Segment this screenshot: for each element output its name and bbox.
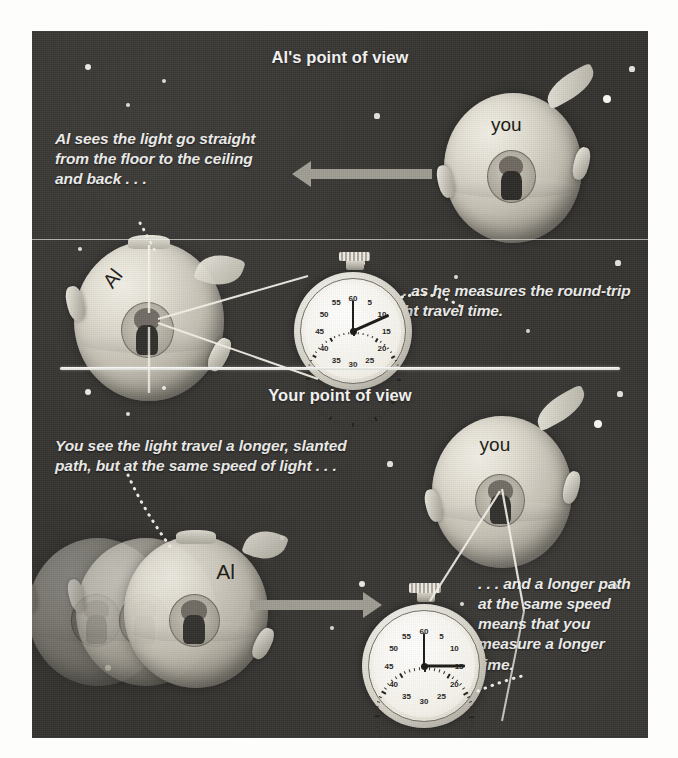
stopwatch-number: 40 (320, 343, 329, 352)
astronaut-body (183, 615, 205, 644)
star (615, 260, 620, 265)
stopwatch-number: 15 (382, 327, 391, 336)
top-panel-heading: Al's point of view (32, 48, 648, 67)
your-stopwatch: 60510152025303540455055 (362, 604, 486, 728)
bottom-caption-left: You see the light travel a longer, slant… (55, 436, 355, 476)
star (162, 79, 166, 83)
ship-you-top: you (444, 93, 582, 243)
stopwatch-number: 55 (402, 631, 411, 640)
stopwatch-number: 45 (315, 327, 324, 336)
stopwatch-second-hand (424, 665, 465, 668)
arrow-head (292, 161, 311, 187)
stopwatch-number: 35 (402, 692, 411, 701)
stopwatch-dial: 60510152025303540455055 (373, 615, 475, 717)
star (359, 581, 365, 587)
bottom-panel: Your point of view You see the light tra… (32, 368, 648, 738)
star (374, 113, 379, 118)
ship-window (487, 150, 536, 203)
ship-al-bottom: Al (124, 536, 268, 688)
bottom-caption-right: . . . and a longer path at the same spee… (478, 574, 634, 675)
stopwatch-number: 40 (389, 679, 398, 688)
stopwatch-number: 20 (450, 679, 459, 688)
astronaut-body (136, 325, 158, 355)
stopwatch-number: 25 (365, 355, 374, 364)
arrow-shaft (250, 600, 365, 610)
star (126, 412, 131, 417)
top-caption-right: . . . as he measures the round-trip ligh… (386, 281, 636, 321)
star (594, 420, 602, 428)
top-panel: Al's point of view Al sees the light go … (32, 31, 648, 368)
horizon-line-top (32, 239, 648, 240)
stopwatch-number: 50 (389, 644, 398, 653)
ship-cap-top (176, 530, 216, 544)
star (330, 626, 334, 630)
astronaut-body (501, 171, 522, 200)
ship-you-bottom: you (432, 416, 572, 568)
stopwatch-minute-hand (423, 633, 426, 666)
stopwatch-number: 10 (450, 644, 459, 653)
ship-window (475, 474, 525, 528)
star (603, 95, 611, 103)
stopwatch-number: 35 (332, 355, 341, 364)
stopwatch-crown (409, 583, 441, 593)
stopwatch-number: 5 (367, 298, 371, 307)
stopwatch-number: 25 (437, 692, 446, 701)
star (454, 275, 459, 280)
stopwatch-number: 55 (332, 298, 341, 307)
ship-cap-top (128, 235, 170, 249)
top-caption-left: Al sees the light go straight from the f… (55, 129, 273, 189)
stopwatch-center-pin (421, 663, 428, 670)
ship-fin (541, 62, 601, 109)
astronaut-body (490, 495, 511, 524)
ship-you-label: you (491, 114, 522, 136)
ship-window (169, 594, 220, 648)
ship-window (121, 302, 174, 358)
stopwatch-dial: 60510152025303540455055 (305, 283, 402, 380)
stopwatch-center-pin (350, 328, 357, 335)
star (387, 461, 392, 466)
arrow-shaft (311, 169, 432, 179)
stopwatch-number: 45 (384, 662, 393, 671)
stopwatch-number: 50 (320, 310, 329, 319)
relativity-time-dilation-figure: Al's point of view Al sees the light go … (32, 31, 648, 738)
stopwatch-number: 20 (377, 343, 386, 352)
ship-you-label: you (480, 434, 511, 456)
stopwatch-crown (339, 252, 370, 261)
ship-al-label: Al (216, 560, 235, 584)
velocity-arrow-left (292, 161, 432, 187)
stopwatch-number: 5 (439, 631, 443, 640)
stopwatch-number: 30 (420, 697, 429, 706)
star (629, 66, 634, 71)
star (126, 103, 131, 108)
stopwatch-minute-hand (352, 300, 355, 331)
star (526, 329, 530, 333)
